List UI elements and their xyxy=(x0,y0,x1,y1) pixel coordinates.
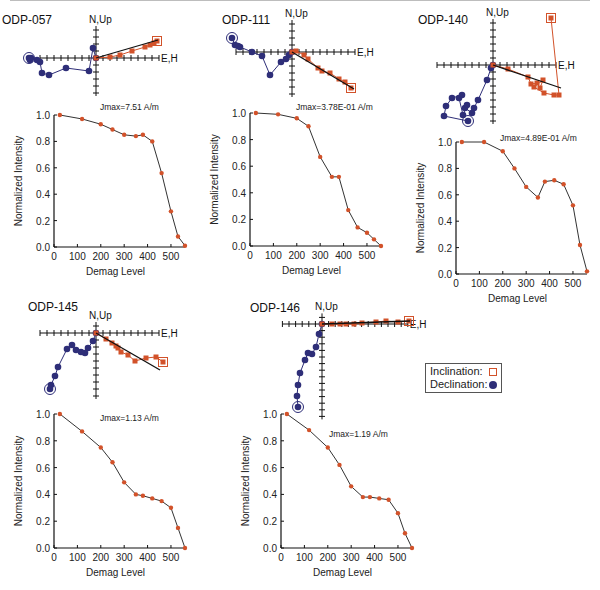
y-axis-label: Normalized Intensity xyxy=(240,436,251,527)
intensity-point xyxy=(80,117,84,121)
y-tick-label: 1.0 xyxy=(36,409,50,420)
intensity-plot: 01002003004005000.00.20.40.60.81.0Demag … xyxy=(13,102,187,277)
declination-point xyxy=(259,53,266,60)
jmax-annotation: Jmax=1.19 A/m xyxy=(329,429,388,439)
axis-label-n-up: N,Up xyxy=(89,14,112,25)
x-tick-label: 300 xyxy=(116,552,133,563)
x-tick-label: 400 xyxy=(139,251,156,262)
jmax-annotation: Jmax=4.89E-01 A/m xyxy=(500,133,577,143)
intensity-point xyxy=(585,269,589,273)
panel-odp-057: ODP-057N,UpE,H01002003004005000.00.20.40… xyxy=(2,13,187,277)
intensity-point xyxy=(536,195,540,199)
y-axis-label: Normalized Intensity xyxy=(209,134,220,225)
x-tick-label: 300 xyxy=(518,278,535,289)
declination-point xyxy=(90,45,97,52)
legend-label-declination: Declination: xyxy=(430,378,487,391)
intensity-point xyxy=(141,133,145,137)
x-tick-label: 500 xyxy=(390,552,407,563)
zijderveld-plot: N,UpE,H xyxy=(40,310,178,399)
intensity-point xyxy=(306,124,310,128)
x-tick-label: 500 xyxy=(163,251,180,262)
intensity-point xyxy=(285,412,289,416)
intensity-point xyxy=(176,526,180,530)
axis-label-n-up: N,Up xyxy=(89,310,112,321)
declination-point xyxy=(295,382,302,389)
inclination-point xyxy=(344,322,349,327)
jmax-annotation: Jmax=3.78E-01 A/m xyxy=(296,102,373,112)
intensity-line xyxy=(256,113,381,246)
declination-point xyxy=(305,350,312,357)
intensity-plot: 01002003004005000.00.20.40.60.81.0Demag … xyxy=(209,102,383,276)
intensity-point xyxy=(578,243,582,247)
intensity-plot: 01002003004005000.00.20.40.60.81.0Demag … xyxy=(13,409,187,578)
declination-point xyxy=(294,393,301,400)
intensity-point xyxy=(524,185,528,189)
declination-point xyxy=(47,386,54,393)
legend-row-declination: Declination: xyxy=(430,378,497,391)
declination-point xyxy=(441,113,448,120)
inclination-point xyxy=(119,350,124,355)
x-tick-label: 400 xyxy=(541,278,558,289)
inclination-point xyxy=(532,85,537,90)
intensity-point xyxy=(150,496,154,500)
y-tick-label: 0.4 xyxy=(36,489,50,500)
declination-point xyxy=(449,95,456,102)
x-tick-label: 300 xyxy=(343,552,360,563)
intensity-point xyxy=(326,445,330,449)
y-tick-label: 0.6 xyxy=(36,463,50,474)
declination-point xyxy=(52,373,59,380)
y-tick-label: 0.2 xyxy=(36,516,50,527)
intensity-point xyxy=(122,133,126,137)
y-axis-label: Normalized Intensity xyxy=(13,436,24,527)
x-tick-label: 500 xyxy=(565,278,582,289)
y-tick-label: 0.8 xyxy=(232,135,246,146)
panel-odp-140: ODP-140N,UpE,H01002003004005000.00.20.40… xyxy=(415,7,589,304)
intensity-point xyxy=(396,511,400,515)
legend-label-inclination: Inclination: xyxy=(430,365,483,378)
panel-title: ODP-145 xyxy=(28,300,78,314)
inclination-point xyxy=(538,86,543,91)
declination-point xyxy=(267,72,274,79)
y-tick-label: 0.6 xyxy=(263,463,277,474)
x-axis-label: Demag Level xyxy=(86,266,145,277)
intensity-plot: 01002003004005000.00.20.40.60.81.0Demag … xyxy=(240,409,414,578)
intensity-point xyxy=(355,225,359,229)
x-tick-label: 400 xyxy=(335,250,352,261)
x-tick-label: 100 xyxy=(471,278,488,289)
legend-row-inclination: Inclination: xyxy=(430,365,497,378)
x-tick-label: 200 xyxy=(92,552,109,563)
declination-point xyxy=(484,77,491,84)
panel-odp-111: ODP-111N,UpE,H01002003004005000.00.20.40… xyxy=(209,8,383,276)
inclination-point xyxy=(118,53,123,58)
axis-label-n-up: N,Up xyxy=(315,301,338,312)
intensity-point xyxy=(561,182,565,186)
intensity-point xyxy=(330,175,334,179)
declination-point xyxy=(46,72,53,79)
inclination-point xyxy=(161,360,166,365)
axis-label-e-h: E,H xyxy=(161,328,178,339)
y-tick-label: 0.0 xyxy=(36,242,50,253)
y-tick-label: 0.0 xyxy=(438,269,452,280)
panel-title: ODP-140 xyxy=(418,13,468,27)
pca-fit-line xyxy=(96,333,160,370)
x-tick-label: 100 xyxy=(69,552,86,563)
y-tick-label: 0.8 xyxy=(36,136,50,147)
x-tick-label: 100 xyxy=(69,251,86,262)
panel-title: ODP-057 xyxy=(2,13,52,27)
y-tick-label: 0.0 xyxy=(232,241,246,252)
intensity-point xyxy=(176,234,180,238)
intensity-point xyxy=(183,243,187,247)
declination-point xyxy=(475,97,482,104)
intensity-point xyxy=(346,208,350,212)
intensity-point xyxy=(379,244,383,248)
declination-point xyxy=(86,68,93,75)
y-tick-label: 0.4 xyxy=(263,489,277,500)
y-tick-label: 0.2 xyxy=(232,214,246,225)
intensity-point xyxy=(99,122,103,126)
inclination-point xyxy=(133,359,138,364)
x-axis-label: Demag Level xyxy=(488,293,547,304)
panel-title: ODP-111 xyxy=(222,13,271,27)
declination-point xyxy=(26,55,33,62)
y-tick-label: 0.2 xyxy=(263,516,277,527)
inclination-point xyxy=(542,91,547,96)
